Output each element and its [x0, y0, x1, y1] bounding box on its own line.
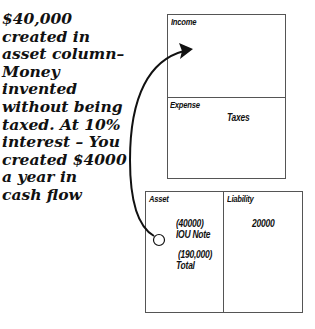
liability-box: Liability 20000 — [223, 191, 303, 313]
expense-item-taxes: Taxes — [227, 112, 250, 123]
expense-label: Expense — [170, 100, 200, 110]
expense-box: Expense Taxes — [167, 97, 286, 179]
income-label: Income — [171, 17, 196, 27]
asset-item-amount-iou: (40000) — [176, 218, 204, 229]
asset-box: Asset (40000) IOU Note (190,000) Total — [145, 191, 224, 313]
caption-text: $40,000 created in asset column– Money i… — [2, 10, 142, 204]
asset-item-name-total: Total — [176, 260, 195, 271]
asset-item-name-iou: IOU Note — [176, 229, 210, 240]
income-box: Income — [167, 14, 286, 98]
liability-label: Liability — [227, 194, 254, 204]
liability-item-amount: 20000 — [252, 218, 274, 229]
asset-label: Asset — [149, 194, 169, 204]
asset-item-amount-total: (190,000) — [178, 249, 212, 260]
